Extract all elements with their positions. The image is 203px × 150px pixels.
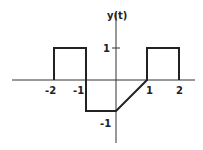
x-tick-label-neg2: -2 xyxy=(45,85,56,96)
x-tick-label-2: 2 xyxy=(176,85,183,96)
y-axis-label: y(t) xyxy=(107,10,127,21)
y-tick-label-1: 1 xyxy=(103,43,110,54)
signal-plot: y(t) 1 -1 -2 -1 1 2 xyxy=(0,0,203,150)
y-tick-label-neg1: -1 xyxy=(100,118,111,129)
x-tick-label-1: 1 xyxy=(146,85,153,96)
x-tick-label-neg1: -1 xyxy=(73,85,84,96)
